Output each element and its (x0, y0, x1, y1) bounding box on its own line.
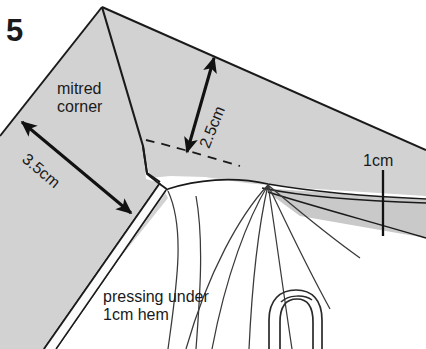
mitred-corner-label: mitred corner (57, 80, 102, 116)
drape-line-8 (196, 196, 201, 349)
mitred-corner-label-line1: mitred (57, 80, 102, 98)
fingertip-inner (280, 299, 313, 349)
drape-line-7 (168, 191, 178, 349)
dimension-label-1cm: 1cm (363, 152, 393, 170)
drape-line-3 (249, 185, 268, 349)
fingertip-icon (269, 290, 322, 349)
mitred-corner-illustration (0, 0, 426, 349)
mitred-corner-label-line2: corner (57, 98, 102, 116)
pressing-label-line2: 1cm hem (103, 306, 209, 324)
pressing-label-line1: pressing under (103, 288, 209, 306)
step-number: 5 (6, 14, 23, 49)
drape-line-2 (212, 185, 268, 349)
diagram-canvas: 5 mitred corner 3.5cm 2.5cm 1cm pressing… (0, 0, 426, 349)
pressing-under-hem-label: pressing under 1cm hem (103, 288, 209, 324)
